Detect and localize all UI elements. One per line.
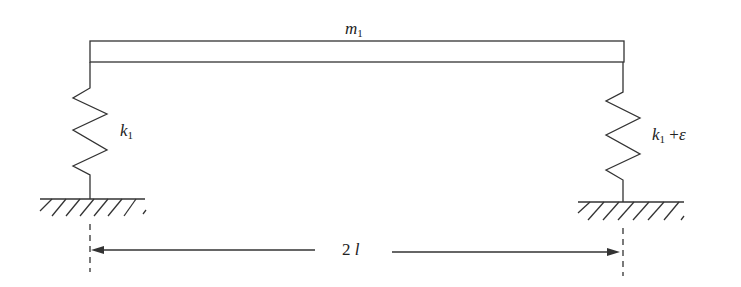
mass-label: m1 — [345, 20, 363, 39]
spring-beam-diagram — [0, 0, 741, 287]
span-label: 2 l — [342, 241, 359, 258]
plus-sign: + — [669, 125, 679, 144]
left-spring-subscript: 1 — [128, 129, 134, 141]
arrowhead-left-icon — [91, 246, 104, 254]
mass-symbol: m — [345, 19, 357, 38]
left-spring-symbol: k — [120, 121, 128, 140]
left-spring — [73, 62, 107, 199]
left-spring-label: k1 — [120, 122, 133, 141]
epsilon-symbol: ε — [679, 125, 686, 144]
right-spring-symbol: k — [652, 125, 660, 144]
right-spring-subscript: 1 — [660, 133, 666, 145]
left-ground — [40, 199, 146, 216]
span-number: 2 — [342, 240, 351, 259]
right-ground — [578, 202, 684, 220]
beam-mass — [90, 41, 624, 62]
mass-subscript: 1 — [357, 27, 363, 39]
right-spring — [606, 62, 640, 202]
span-symbol: l — [355, 240, 360, 259]
right-spring-label: k1 +ε — [652, 126, 686, 145]
arrowhead-right-icon — [607, 248, 620, 256]
